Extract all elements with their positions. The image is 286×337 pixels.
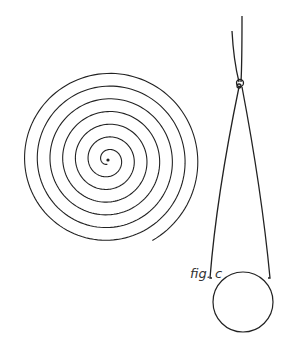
figure-caption: fig. c xyxy=(190,266,222,281)
string-top-left xyxy=(232,31,239,82)
string-left xyxy=(210,87,239,278)
spiral-center-dot xyxy=(106,158,109,161)
string-top-right xyxy=(241,16,242,82)
figure-canvas xyxy=(0,0,286,337)
string-right xyxy=(242,87,270,278)
spiral-drawing xyxy=(25,73,198,240)
pendulum-drawing xyxy=(210,16,273,332)
pendulum-bob xyxy=(213,272,273,332)
